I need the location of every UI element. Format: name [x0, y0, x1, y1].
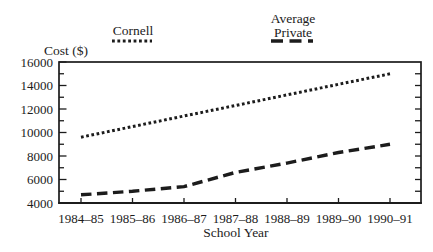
x-axis-title: School Year: [203, 225, 269, 240]
data-series: [81, 74, 390, 195]
cornell-series-line: [81, 74, 390, 137]
x-tick-label: 1984–85: [58, 211, 104, 226]
average-private-series-line: [81, 144, 390, 195]
legend-average-private-label-line2: Private: [274, 25, 312, 40]
y-tick-label: 4000: [27, 196, 53, 211]
x-tick-label: 1987–88: [213, 211, 259, 226]
y-tick-label: 14000: [21, 78, 54, 93]
axis-tick-labels: 400060008000100001200014000160001984–851…: [21, 55, 413, 227]
x-tick-label: 1989–90: [316, 211, 362, 226]
x-tick-label: 1990–91: [367, 211, 413, 226]
x-tick-label: 1986–87: [161, 211, 207, 226]
y-tick-label: 12000: [21, 102, 54, 117]
y-tick-label: 10000: [21, 125, 54, 140]
legend-cornell-label: Cornell: [113, 23, 154, 38]
y-tick-label: 8000: [27, 149, 53, 164]
cost-line-chart: Cornell Average Private Cost ($) 4000600…: [0, 0, 433, 252]
legend: Cornell Average Private: [112, 11, 315, 41]
plot-area: 400060008000100001200014000160001984–851…: [21, 55, 422, 227]
plot-frame: [59, 62, 421, 203]
x-tick-label: 1985–86: [110, 211, 156, 226]
legend-average-private-label-line1: Average: [271, 11, 316, 26]
x-tick-label: 1988–89: [264, 211, 310, 226]
axis-ticks: [59, 62, 421, 203]
chart-figure: Cornell Average Private Cost ($) 4000600…: [0, 0, 433, 252]
y-tick-label: 16000: [21, 55, 54, 70]
y-tick-label: 6000: [27, 172, 53, 187]
